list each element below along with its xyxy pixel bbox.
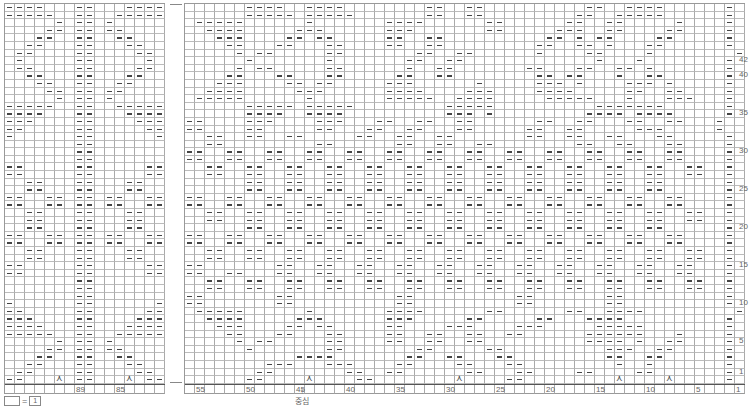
knit-cell: [715, 103, 725, 111]
knit-cell: [555, 376, 565, 384]
purl-stitch-icon: [565, 270, 575, 278]
knit-cell: [275, 27, 285, 35]
knit-cell: [145, 156, 155, 164]
chart-row: [5, 4, 165, 12]
chart-row: [5, 19, 165, 27]
knit-cell: [285, 110, 295, 118]
knit-cell: [375, 110, 385, 118]
column-number: [135, 385, 145, 394]
purl-stitch-icon: [725, 376, 735, 384]
purl-stitch-icon: [145, 12, 155, 20]
knit-cell: [355, 179, 365, 187]
knit-cell: [265, 72, 275, 80]
column-number: [435, 385, 445, 394]
purl-stitch-icon: [325, 323, 335, 331]
purl-stitch-icon: [135, 255, 145, 263]
chart-row: [5, 186, 165, 194]
knit-cell: [135, 376, 145, 384]
knit-cell: [35, 376, 45, 384]
knit-cell: [545, 224, 555, 232]
purl-stitch-icon: [675, 338, 685, 346]
purl-stitch-icon: [395, 133, 405, 141]
knit-cell: [205, 194, 215, 202]
knit-cell: [185, 103, 195, 111]
knit-cell: [145, 72, 155, 80]
purl-stitch-icon: [675, 88, 685, 96]
purl-stitch-icon: [725, 255, 735, 263]
knit-cell: [35, 88, 45, 96]
knit-cell: [645, 201, 655, 209]
knit-cell: [135, 201, 145, 209]
knit-cell: [405, 103, 415, 111]
purl-stitch-icon: [205, 95, 215, 103]
knit-cell: [65, 133, 75, 141]
purl-stitch-icon: [325, 270, 335, 278]
purl-stitch-icon: [605, 255, 615, 263]
knit-cell: [715, 65, 725, 73]
purl-stitch-icon: [155, 270, 165, 278]
knit-cell: [395, 12, 405, 20]
knit-cell: [115, 315, 125, 323]
knit-cell: [55, 179, 65, 187]
purl-stitch-icon: [675, 156, 685, 164]
purl-stitch-icon: [15, 239, 25, 247]
knit-cell: [345, 331, 355, 339]
knit-cell: [285, 141, 295, 149]
purl-stitch-icon: [565, 19, 575, 27]
purl-stitch-icon: [145, 331, 155, 339]
knit-cell: [95, 57, 105, 65]
knit-cell: [425, 285, 435, 293]
knit-cell: [285, 19, 295, 27]
knit-cell: [455, 133, 465, 141]
purl-stitch-icon: [15, 308, 25, 316]
knit-cell: [455, 293, 465, 301]
knit-cell: [255, 346, 265, 354]
knit-cell: [255, 353, 265, 361]
knit-cell: [555, 308, 565, 316]
knit-cell: [705, 19, 715, 27]
purl-stitch-icon: [135, 217, 145, 225]
knit-cell: [535, 19, 545, 27]
purl-stitch-icon: [575, 308, 585, 316]
knit-cell: [375, 57, 385, 65]
knit-cell: [45, 57, 55, 65]
knit-cell: [335, 19, 345, 27]
purl-stitch-icon: [315, 80, 325, 88]
knit-cell: [405, 118, 415, 126]
knit-cell: [385, 255, 395, 263]
chart-row: [5, 110, 165, 118]
knit-cell: [705, 308, 715, 316]
knit-cell: [295, 110, 305, 118]
purl-stitch-icon: [365, 285, 375, 293]
purl-stitch-icon: [435, 239, 445, 247]
purl-stitch-icon: [345, 201, 355, 209]
knit-cell: [205, 34, 215, 42]
knit-cell: [345, 255, 355, 263]
knit-cell: [235, 376, 245, 384]
knit-cell: [225, 163, 235, 171]
purl-stitch-icon: [25, 12, 35, 20]
purl-stitch-icon: [475, 4, 485, 12]
knit-cell: [215, 338, 225, 346]
knit-cell: [415, 141, 425, 149]
knit-cell: [215, 179, 225, 187]
knit-cell: [95, 270, 105, 278]
knit-cell: [395, 247, 405, 255]
knit-cell: [435, 163, 445, 171]
knit-cell: [655, 27, 665, 35]
knit-cell: [375, 369, 385, 377]
purl-stitch-icon: [485, 247, 495, 255]
knit-cell: [475, 300, 485, 308]
purl-stitch-icon: [295, 285, 305, 293]
purl-stitch-icon: [435, 141, 445, 149]
knit-cell: [285, 27, 295, 35]
knit-cell: [335, 80, 345, 88]
purl-stitch-icon: [365, 126, 375, 134]
knit-cell: [125, 194, 135, 202]
knit-cell: [245, 80, 255, 88]
knit-cell: [255, 232, 265, 240]
knit-cell: [115, 42, 125, 50]
knit-cell: [345, 110, 355, 118]
knit-cell: [695, 224, 705, 232]
knit-cell: [265, 163, 275, 171]
